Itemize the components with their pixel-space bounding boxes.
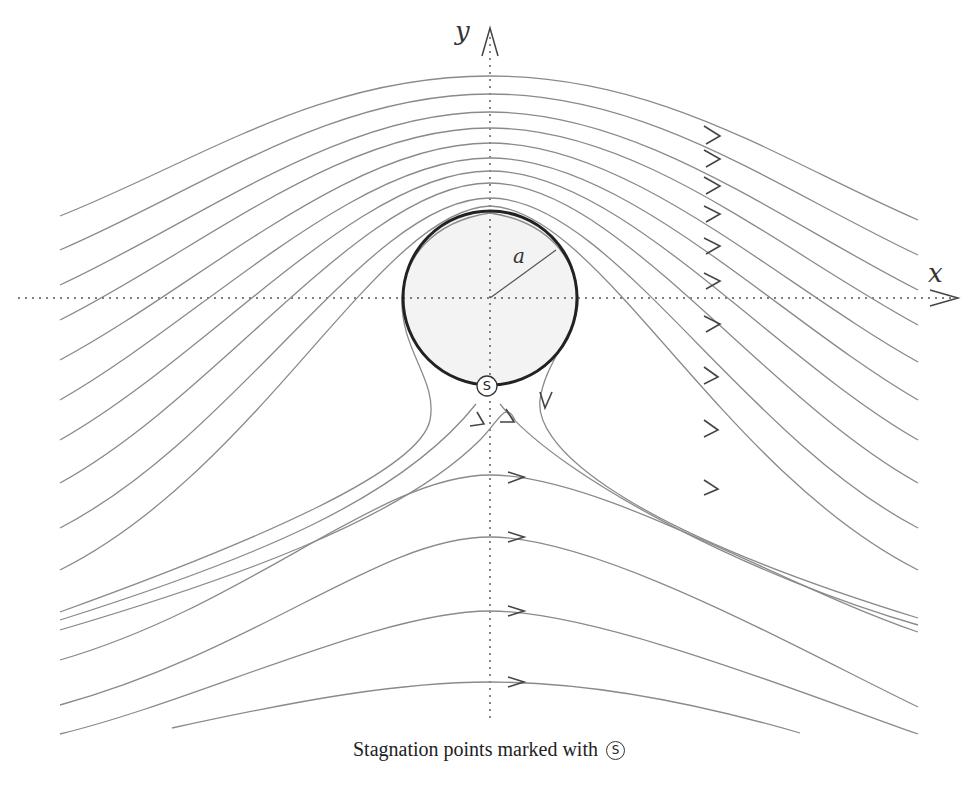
diagram-canvas xyxy=(0,0,978,740)
x-axis-label: x xyxy=(928,258,943,288)
radius-label: a xyxy=(513,244,525,268)
arrow-icon xyxy=(470,412,484,426)
caption-text: Stagnation points marked with xyxy=(353,738,598,760)
stagnation-point-label: S xyxy=(478,377,496,395)
stagnation-symbol-icon: S xyxy=(606,741,625,760)
figure-caption: Stagnation points marked with S xyxy=(0,738,978,761)
arrow-icon xyxy=(508,606,524,616)
arrow-icon xyxy=(704,126,720,144)
streamlines-lower xyxy=(60,475,918,734)
arrow-icon xyxy=(704,367,718,384)
arrow-icon xyxy=(540,392,552,408)
streamline-diagram: y x a S xyxy=(0,0,978,740)
arrow-icon xyxy=(704,420,718,437)
arrow-icon xyxy=(508,532,524,542)
arrow-icon xyxy=(704,206,720,222)
arrow-icon xyxy=(704,480,718,495)
y-axis-label: y xyxy=(455,16,470,46)
